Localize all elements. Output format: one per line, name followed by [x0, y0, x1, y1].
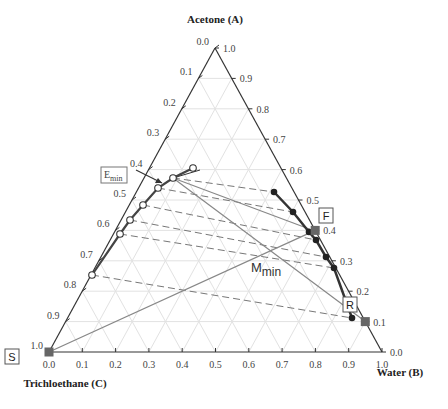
right-tick-label: 0.2: [357, 286, 370, 297]
point-R: [361, 317, 370, 326]
axis-title-top: Acetone (A): [187, 13, 243, 26]
left-tick-label: 1.0: [31, 340, 44, 351]
point-F: [311, 226, 320, 235]
left-tick-label: 0.9: [47, 310, 60, 321]
label-R: R: [346, 299, 354, 311]
bottom-tick-label: 0.2: [109, 359, 122, 370]
raffinate-point: [323, 254, 330, 261]
bottom-tick-label: 0.4: [176, 359, 189, 370]
grid-line: [66, 322, 83, 352]
right-tick-label: 0.9: [240, 73, 253, 84]
raffinate-point: [290, 209, 297, 216]
raffinate-point: [271, 189, 278, 196]
ternary-chart: 0.01.00.00.10.90.10.20.80.20.30.70.30.40…: [0, 0, 448, 409]
extract-point: [127, 217, 134, 224]
bottom-tick-label: 0.5: [209, 359, 222, 370]
bottom-tick-label: 0.1: [76, 359, 89, 370]
extract-point: [117, 231, 124, 238]
tie-line: [92, 275, 352, 318]
bottom-tick-label: 0.0: [43, 359, 56, 370]
raffinate-point: [313, 237, 320, 244]
left-tick-label: 0.8: [64, 279, 77, 290]
raffinate-point: [349, 315, 356, 322]
grid-line: [349, 322, 366, 352]
grid-line: [149, 139, 265, 352]
left-tick-label: 0.2: [163, 97, 176, 108]
bottom-tick-label: 0.3: [143, 359, 156, 370]
left-tick-label: 0.5: [114, 188, 127, 199]
label-S: S: [8, 351, 15, 363]
right-tick-label: 0.3: [340, 256, 353, 267]
bottom-tick-label: 0.6: [243, 359, 256, 370]
raffinate-point: [331, 265, 338, 272]
left-tick-label: 0.6: [97, 218, 110, 229]
grid-line: [282, 261, 332, 352]
left-tick-label: 0.0: [197, 36, 210, 47]
bottom-tick-label: 0.8: [309, 359, 322, 370]
grid-line: [82, 78, 231, 352]
right-tick-label: 0.7: [273, 134, 286, 145]
grid-line: [99, 261, 149, 352]
extract-point: [190, 165, 197, 172]
left-tick-label: 0.4: [130, 158, 143, 169]
label-F: F: [323, 210, 330, 222]
right-tick-label: 0.6: [290, 165, 303, 176]
right-tick-label: 0.0: [390, 347, 403, 358]
extract-point: [170, 175, 177, 182]
bottom-tick-label: 0.7: [276, 359, 289, 370]
extract-point: [155, 185, 162, 192]
axis-title-right: Water (B): [377, 366, 424, 379]
right-tick-label: 0.4: [323, 225, 336, 236]
left-tick-label: 0.3: [147, 127, 160, 138]
right-tick-label: 0.1: [373, 317, 386, 328]
left-tick-label: 0.7: [80, 249, 93, 260]
bottom-tick-label: 0.9: [342, 359, 355, 370]
axis-title-left: Trichloethane (C): [23, 377, 107, 390]
point-S: [45, 348, 54, 357]
extract-point: [89, 272, 96, 279]
right-tick-label: 1.0: [223, 43, 236, 54]
right-tick-label: 0.5: [307, 195, 320, 206]
right-tick-label: 0.8: [256, 104, 269, 115]
left-tick-label: 0.1: [180, 66, 193, 77]
grid-line: [216, 200, 299, 352]
extract-point: [140, 202, 147, 209]
